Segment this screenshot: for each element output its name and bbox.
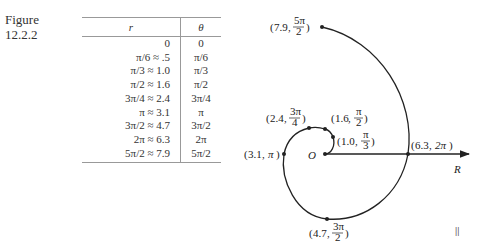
axis-label-r: R [453,163,461,175]
svg-text:): ) [371,135,375,148]
svg-text:,: , [429,139,432,151]
point-dot [325,217,329,221]
svg-text:4: 4 [292,116,298,128]
point-label: ( 6.3 , 2π ) [411,139,453,152]
svg-text:2: 2 [335,231,341,243]
svg-text:,: , [288,21,291,33]
svg-text:2.4: 2.4 [270,112,284,124]
svg-text:,: , [355,135,358,147]
origin-label: O [308,149,316,161]
svg-text:2: 2 [356,116,362,128]
svg-text:): ) [345,227,349,240]
point-dot [307,126,311,130]
point-dot [282,152,286,156]
svg-text:): ) [449,139,453,152]
origin-dot [323,152,327,156]
point-label: ( 7.9 , 5π 2 ) [270,14,310,37]
svg-text:,: , [262,148,265,160]
svg-text:7.9: 7.9 [274,21,288,33]
point-label: ( 2.4 , 3π 4 ) [266,105,306,128]
svg-text:,: , [348,112,351,124]
svg-text:): ) [276,148,280,161]
svg-text:2: 2 [296,25,302,37]
point-label: ( 1.0 , π 3 ) [337,128,375,151]
corner-mark: || [455,224,459,236]
svg-text:1.0: 1.0 [341,135,355,147]
svg-text:6.3: 6.3 [415,139,429,151]
svg-text:): ) [364,112,368,125]
point-dot [320,25,324,29]
svg-text:π: π [268,148,274,160]
spiral-plot: O R ( 1.0 , π 3 ) ( 1.6 , π 2 ) ( 2.4 , … [0,0,484,248]
svg-text:2π: 2π [435,139,447,151]
svg-text:3: 3 [363,139,369,151]
svg-text:): ) [302,112,306,125]
svg-text:4.7: 4.7 [313,227,327,239]
point-dot [406,152,410,156]
svg-text:,: , [327,227,330,239]
point-label: ( 1.6 , π 2 ) [331,105,368,128]
point-dot [323,127,327,131]
svg-text:3.1: 3.1 [248,148,262,160]
svg-text:): ) [306,21,310,34]
point-dot [331,135,335,139]
point-label: ( 4.7 , 3π 2 ) [309,220,349,243]
point-label: ( 3.1 , π ) [244,148,280,161]
svg-text:,: , [284,112,287,124]
